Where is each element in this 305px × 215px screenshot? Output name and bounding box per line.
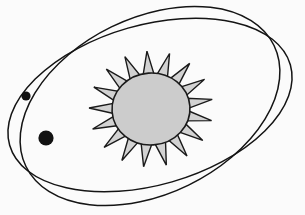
planet-1 (38, 130, 53, 145)
planet-0 (21, 91, 30, 100)
solar-system-diagram (0, 0, 305, 215)
diagram-canvas (0, 0, 305, 215)
